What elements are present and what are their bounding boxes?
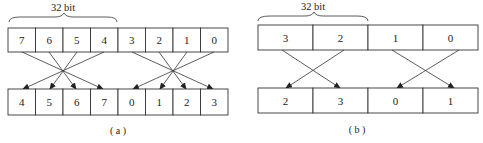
cell: 6 (74, 96, 80, 108)
byte-shuffle-diagram: 32 bit 7 6 5 4 3 2 1 0 (0, 0, 483, 143)
bottom-row-b: 2 3 0 1 (258, 88, 478, 113)
cell: 0 (448, 32, 454, 44)
cell: 0 (393, 95, 399, 107)
cell: 7 (102, 96, 108, 108)
cell: 2 (157, 34, 163, 46)
swap-arrows-b-right (392, 50, 459, 88)
swap-arrows-b-left (282, 50, 344, 88)
cell: 4 (102, 34, 108, 46)
top-row-b: 3 2 1 0 (258, 25, 478, 50)
diagram-a: 32 bit 7 6 5 4 3 2 1 0 (8, 2, 228, 137)
width-label-a: 32 bit (51, 2, 75, 13)
cell: 3 (338, 95, 344, 107)
caption-b: ( b ) (349, 124, 366, 136)
shuffle-arrows-a-left (22, 52, 104, 89)
shuffle-arrows-a-right (132, 52, 214, 89)
cell: 2 (283, 95, 289, 107)
diagram-b: 32 bit 3 2 1 0 2 3 0 1 (258, 1, 478, 136)
cell: 0 (212, 34, 218, 46)
cell: 5 (47, 96, 53, 108)
cell: 3 (212, 96, 218, 108)
cell: 7 (19, 34, 25, 46)
cell: 6 (47, 34, 53, 46)
cell: 4 (19, 96, 25, 108)
width-label-b: 32 bit (301, 1, 325, 12)
top-row-a: 7 6 5 4 3 2 1 0 (8, 28, 228, 52)
cell: 1 (157, 96, 163, 108)
cell: 1 (184, 34, 190, 46)
brace-32bit-a (9, 13, 117, 22)
cell: 3 (129, 34, 135, 46)
caption-a: ( a ) (110, 125, 126, 137)
cell: 1 (393, 32, 399, 44)
cell: 2 (184, 96, 190, 108)
cell: 3 (283, 32, 289, 44)
cell: 2 (338, 32, 344, 44)
cell: 0 (129, 96, 135, 108)
cell: 1 (448, 95, 454, 107)
cell: 5 (74, 34, 80, 46)
bottom-row-a: 4 5 6 7 0 1 2 3 (8, 89, 228, 115)
brace-32bit-b (258, 12, 368, 21)
